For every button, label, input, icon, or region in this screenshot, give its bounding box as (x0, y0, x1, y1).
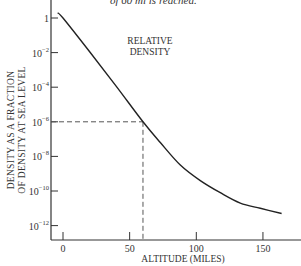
x-tick-label: 0 (61, 243, 66, 254)
x-ticks: 050100150 (61, 232, 271, 254)
reference-lines (51, 122, 143, 240)
axes (51, 0, 301, 240)
y-tick-label: 1 (44, 13, 49, 24)
y-tick-label: 10−8 (32, 149, 49, 162)
y-axis-title: DENSITY AS A FRACTIONOF DENSITY AT SEA L… (6, 66, 27, 193)
density-altitude-chart: 110−210−410−610−810−1010−12 050100150 RE… (0, 0, 301, 266)
x-axis-title: ALTITUDE (MILES) (141, 254, 224, 265)
y-axis-title-line: OF DENSITY AT SEA LEVEL (17, 66, 27, 193)
y-tick-label: 10−2 (32, 46, 49, 59)
x-tick-label: 100 (189, 243, 204, 254)
relative-density-label: RELATIVEDENSITY (127, 36, 173, 57)
x-tick-label: 50 (125, 243, 135, 254)
y-tick-label: 10−6 (32, 115, 50, 128)
y-tick-label: 10−10 (29, 184, 49, 197)
x-tick-label: 150 (255, 243, 270, 254)
y-axis-title-line: DENSITY AS A FRACTION (6, 71, 16, 190)
y-tick-label: 10−12 (29, 219, 49, 232)
y-tick-label: 10−4 (32, 80, 50, 93)
